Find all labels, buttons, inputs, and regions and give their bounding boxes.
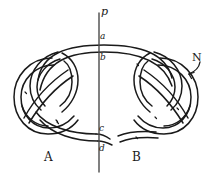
knot-diagram-figure: p a b c d A B N bbox=[0, 0, 214, 178]
knot-drawing bbox=[0, 0, 214, 178]
label-point-a: a bbox=[100, 32, 105, 41]
label-point-b: b bbox=[100, 53, 106, 62]
label-knot-a: A bbox=[44, 151, 53, 163]
label-point-d: d bbox=[99, 144, 105, 153]
label-annotation-n: N bbox=[192, 52, 202, 63]
label-line-p: p bbox=[101, 6, 108, 17]
label-knot-b: B bbox=[132, 151, 141, 163]
curved-arrow-icon bbox=[189, 62, 200, 79]
label-point-c: c bbox=[99, 124, 104, 133]
